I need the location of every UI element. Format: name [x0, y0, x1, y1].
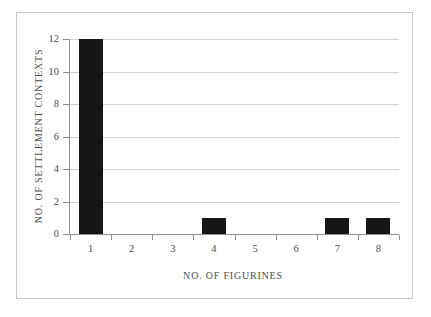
y-tick-label: 12 [49, 33, 60, 44]
x-tick-label: 8 [376, 243, 381, 254]
y-axis-title: NO. OF SETTLEMENT CONTEXTS [33, 49, 44, 224]
x-tick [235, 235, 236, 240]
y-tick-label: 6 [54, 131, 59, 142]
gridline [70, 202, 399, 203]
y-tick [63, 202, 69, 203]
bar [202, 218, 226, 234]
x-tick [358, 235, 359, 240]
x-tick-label: 2 [129, 243, 134, 254]
x-tick-label: 6 [294, 243, 299, 254]
y-tick-label: 10 [49, 66, 60, 77]
bar [366, 218, 390, 234]
gridline [70, 72, 399, 73]
y-tick [63, 169, 69, 170]
y-tick [63, 39, 69, 40]
x-tick [111, 235, 112, 240]
x-tick [276, 235, 277, 240]
gridline [70, 104, 399, 105]
x-tick-label: 3 [170, 243, 175, 254]
y-tick [63, 72, 69, 73]
x-tick [399, 235, 400, 240]
x-tick [193, 235, 194, 240]
x-tick-label: 1 [88, 243, 93, 254]
y-tick-label: 8 [54, 98, 59, 109]
x-tick-label: 5 [252, 243, 257, 254]
y-tick [63, 234, 69, 235]
bar [79, 39, 103, 234]
x-tick-label: 7 [335, 243, 340, 254]
bar [325, 218, 349, 234]
y-tick [63, 104, 69, 105]
gridline [70, 169, 399, 170]
y-tick-label: 2 [54, 196, 59, 207]
x-tick [317, 235, 318, 240]
chart-figure: NO. OF SETTLEMENT CONTEXTS 0246810121234… [0, 0, 431, 317]
gridline [70, 137, 399, 138]
x-tick [152, 235, 153, 240]
y-tick [63, 137, 69, 138]
gridline [70, 39, 399, 40]
x-tick [70, 235, 71, 240]
plot-area: 02468101212345678 [69, 39, 399, 235]
x-tick-label: 4 [211, 243, 216, 254]
y-tick-label: 4 [54, 163, 59, 174]
y-tick-label: 0 [54, 228, 59, 239]
x-axis-title: NO. OF FIGURINES [183, 270, 283, 281]
